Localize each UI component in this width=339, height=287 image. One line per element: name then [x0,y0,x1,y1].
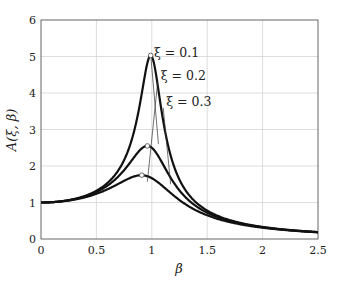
annotation-label: ξ = 0.1 [154,45,199,60]
y-tick-label: 4 [29,87,36,100]
peak-marker [140,173,145,178]
y-tick-label: 5 [29,51,36,64]
y-tick-label: 1 [29,197,36,210]
x-tick-label: 1.5 [198,244,216,257]
annotation-label: ξ = 0.2 [161,68,206,83]
annotation-leader-line [147,82,157,181]
x-tick-label: 0 [38,244,45,257]
peak-marker [145,144,150,149]
amplification-factor-chart: ξ = 0.1ξ = 0.2ξ = 0.3 00.511.522.5012345… [0,0,339,287]
y-axis-label: A(ξ, β) [4,109,19,152]
curve-xi-0.2 [41,146,318,232]
annotation-leaders: ξ = 0.1ξ = 0.2ξ = 0.3 [147,45,211,185]
peak-marker [148,53,153,58]
y-tick-label: 6 [29,14,36,27]
y-tick-label: 3 [29,124,36,137]
x-tick-label: 0.5 [88,244,106,257]
x-tick-label: 2 [259,244,266,257]
x-tick-label: 2.5 [309,244,327,257]
y-tick-label: 0 [29,233,36,246]
curve-xi-0.3 [41,175,318,232]
x-tick-label: 1 [148,244,155,257]
y-tick-label: 2 [29,160,36,173]
annotation-label: ξ = 0.3 [166,94,211,109]
x-axis-label: β [174,261,183,276]
